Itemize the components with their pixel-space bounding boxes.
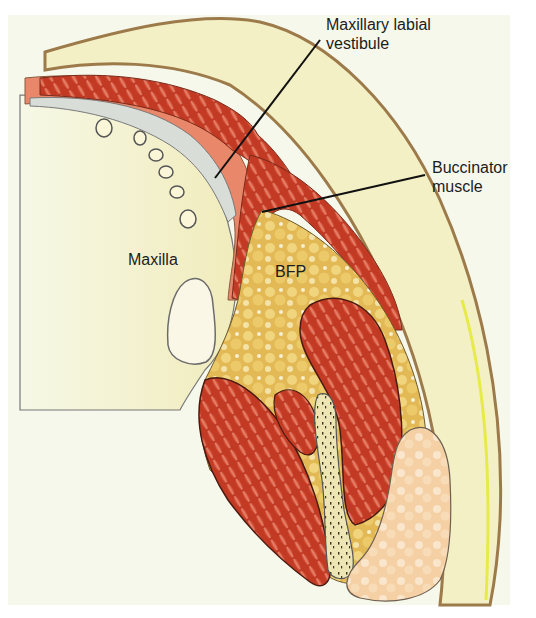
label-maxillary-labial-vestibule: Maxillary labial vestibule [326, 15, 431, 53]
label-maxilla: Maxilla [128, 250, 178, 269]
label-buccinator-muscle: Buccinator muscle [432, 158, 508, 196]
label-bfp: BFP [275, 262, 306, 281]
anatomical-cross-section [0, 0, 536, 618]
